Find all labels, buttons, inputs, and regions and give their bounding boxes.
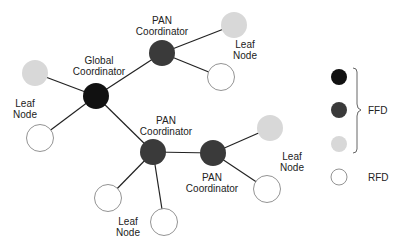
leaf-left-white-node (27, 125, 54, 152)
leaf-right-label-2: Node (280, 162, 304, 173)
leaf-left-gray-node (22, 60, 48, 86)
leaf-right-white-node (254, 176, 281, 203)
leaf-left-label-1: Leaf (15, 98, 35, 109)
legend: FFD RFD (331, 68, 389, 185)
legend-swatch-black (331, 69, 347, 85)
pan-coordinator-mid-node (140, 139, 166, 165)
leaf-top-white-node (208, 64, 235, 91)
pan-right-label-1: PAN (202, 172, 222, 183)
leaf-bottom-2-node (151, 209, 178, 236)
leaf-left-label-2: Node (13, 109, 37, 120)
leaf-bottom-label-1: Leaf (118, 216, 138, 227)
leaf-top-gray-node (221, 12, 247, 38)
global-coordinator-label-2: Coordinator (73, 66, 126, 77)
legend-swatch-dark-gray (331, 102, 347, 118)
global-coordinator-label-1: Global (85, 55, 114, 66)
ffd-brace-icon (353, 68, 361, 153)
pan-mid-label-2: Coordinator (140, 126, 193, 137)
leaf-right-gray-node (257, 115, 283, 141)
pan-top-label-1: PAN (152, 15, 172, 26)
pan-right-label-2: Coordinator (186, 183, 239, 194)
pan-coordinator-right-node (200, 140, 226, 166)
legend-swatch-light-gray (331, 136, 347, 152)
leaf-bottom-1-node (95, 185, 122, 212)
pan-top-label-2: Coordinator (136, 26, 189, 37)
legend-swatch-white (331, 169, 347, 185)
legend-rfd-label: RFD (368, 172, 389, 183)
leaf-right-label-1: Leaf (282, 151, 302, 162)
pan-coordinator-top-node (149, 40, 175, 66)
network-diagram: Global Coordinator PAN Coordinator PAN C… (0, 0, 399, 249)
legend-ffd-label: FFD (368, 105, 387, 116)
leaf-top-label-1: Leaf (235, 39, 255, 50)
global-coordinator-node (83, 83, 109, 109)
pan-mid-label-1: PAN (156, 115, 176, 126)
leaf-bottom-label-2: Node (116, 227, 140, 238)
leaf-top-label-2: Node (233, 50, 257, 61)
